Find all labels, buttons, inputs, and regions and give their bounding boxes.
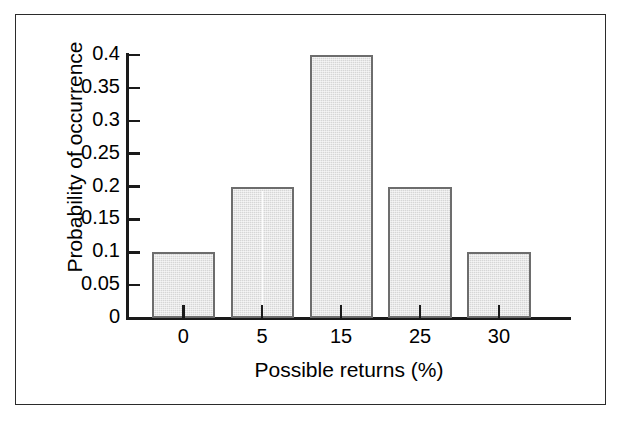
- x-axis-tick-label: 0: [143, 326, 223, 346]
- plot-area: [128, 55, 570, 318]
- x-axis-tick: [419, 305, 422, 318]
- x-axis-tick: [182, 305, 185, 318]
- y-axis-title: Probability of occurrence: [63, 7, 87, 307]
- x-axis-tick: [340, 305, 343, 318]
- x-axis-tick: [498, 305, 501, 318]
- y-axis-tick-label: 0.3: [0, 109, 120, 129]
- y-axis-tick-label: 0.1: [0, 240, 120, 260]
- x-axis-tick-label: 15: [301, 326, 381, 346]
- y-axis-tick-label: 0.35: [0, 76, 120, 96]
- x-axis-tick-label: 30: [459, 326, 539, 346]
- y-axis-tick-label: 0.4: [0, 43, 120, 63]
- bar: [310, 55, 373, 318]
- y-axis-tick-label: 0: [0, 306, 120, 326]
- y-axis-tick-label: 0.25: [0, 142, 120, 162]
- bar: [388, 187, 451, 319]
- x-axis-tick: [261, 305, 264, 318]
- y-axis-tick-label: 0.15: [0, 207, 120, 227]
- y-axis-tick-label: 0.05: [0, 273, 120, 293]
- x-axis-title: Possible returns (%): [128, 358, 570, 382]
- x-axis-tick-label: 5: [222, 326, 302, 346]
- bar: [231, 187, 294, 319]
- figure-root: 00.050.10.150.20.250.30.350.4 05152530 P…: [0, 0, 640, 427]
- x-axis-tick-label: 25: [380, 326, 460, 346]
- y-axis-tick-label: 0.2: [0, 175, 120, 195]
- bar-seam: [262, 191, 264, 317]
